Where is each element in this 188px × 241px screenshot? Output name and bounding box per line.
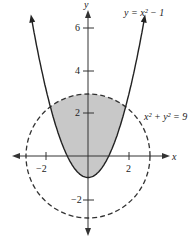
graph: y x −2 2 6 4 2 −2 y = x² − 1 x² + y² = 9 <box>0 0 188 241</box>
y-tick-label-2: 2 <box>75 107 80 118</box>
x-axis-left-arrow-icon <box>12 153 20 159</box>
x-axis-right-arrow-icon <box>162 153 170 159</box>
y-axis-down-arrow-icon <box>85 228 91 236</box>
x-tick-label-2: 2 <box>126 163 131 174</box>
circle-equation-label: x² + y² = 9 <box>143 111 187 122</box>
parabola-left-arrow-icon <box>29 14 35 22</box>
parabola-equation-label: y = x² − 1 <box>123 7 164 18</box>
x-axis-label: x <box>171 151 177 162</box>
y-axis-up-arrow-icon <box>85 10 91 18</box>
x-tick-label-neg2: −2 <box>36 163 47 174</box>
y-tick-label-4: 4 <box>75 65 80 76</box>
y-tick-label-6: 6 <box>75 22 80 33</box>
y-axis-label: y <box>83 0 89 10</box>
y-tick-label-neg2: −2 <box>71 194 82 205</box>
figure: y x −2 2 6 4 2 −2 y = x² − 1 x² + y² = 9 <box>0 0 188 241</box>
